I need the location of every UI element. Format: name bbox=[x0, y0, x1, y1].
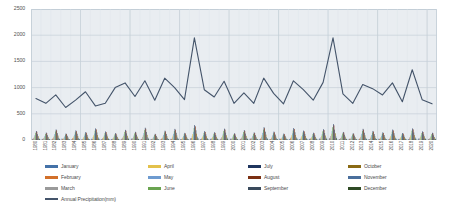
x-axis-tick-label: 1980 bbox=[34, 141, 39, 150]
legend-item[interactable]: April bbox=[148, 162, 174, 170]
x-axis-tick-label: 2012 bbox=[351, 141, 356, 150]
legend-label: April bbox=[164, 164, 174, 169]
x-axis-tick-label: 2005 bbox=[281, 141, 286, 150]
x-axis-tick-label: 1994 bbox=[172, 141, 177, 150]
legend-label: March bbox=[61, 186, 75, 191]
x-axis-tick-label: 1987 bbox=[103, 141, 108, 150]
y-axis-tick-label: 1000 bbox=[14, 85, 25, 90]
x-axis-tick-label: 2016 bbox=[390, 141, 395, 150]
x-axis-tick-label: 2013 bbox=[360, 141, 365, 150]
legend-item[interactable]: Annual Precipitation(mm) bbox=[45, 195, 116, 203]
x-axis-tick-label: 1991 bbox=[143, 141, 148, 150]
x-axis-tick-label: 2017 bbox=[400, 141, 405, 150]
legend-label: May bbox=[164, 175, 173, 180]
x-axis-tick-label: 2002 bbox=[252, 141, 257, 150]
x-axis-tick-label: 1993 bbox=[162, 141, 167, 150]
legend-swatch bbox=[148, 176, 161, 179]
y-axis-tick-label: 1500 bbox=[14, 59, 25, 64]
legend-item[interactable]: November bbox=[348, 173, 387, 181]
legend-swatch bbox=[148, 165, 161, 168]
x-axis-tick-label: 1983 bbox=[63, 141, 68, 150]
y-axis-tick-label: 0 bbox=[22, 137, 25, 142]
legend-item[interactable]: May bbox=[148, 173, 173, 181]
legend-label: September bbox=[264, 186, 288, 191]
x-axis-tick-label: 1998 bbox=[212, 141, 217, 150]
x-axis-tick-label: 2010 bbox=[331, 141, 336, 150]
legend-item[interactable]: September bbox=[248, 184, 288, 192]
legend-item[interactable]: February bbox=[45, 173, 81, 181]
legend-swatch bbox=[348, 176, 361, 179]
x-axis-tick-label: 2007 bbox=[301, 141, 306, 150]
chart-legend: JanuaryFebruaryMarchAprilMayJuneJulyAugu… bbox=[0, 160, 451, 204]
legend-swatch bbox=[348, 165, 361, 168]
x-axis-tick-label: 2006 bbox=[291, 141, 296, 150]
x-axis-tick-label: 2009 bbox=[321, 141, 326, 150]
legend-swatch bbox=[248, 176, 261, 179]
legend-label: February bbox=[61, 175, 81, 180]
y-axis-tick-label: 2000 bbox=[14, 33, 25, 38]
x-axis-tick-label: 2014 bbox=[370, 141, 375, 150]
x-axis-tick-label: 2008 bbox=[311, 141, 316, 150]
x-axis-tick-label: 1981 bbox=[44, 141, 49, 150]
y-axis-tick-label: 2500 bbox=[14, 6, 25, 11]
legend-label: November bbox=[364, 175, 387, 180]
x-axis-tick-label: 2004 bbox=[271, 141, 276, 150]
x-axis-tick-label: 1990 bbox=[133, 141, 138, 150]
legend-item[interactable]: October bbox=[348, 162, 381, 170]
legend-item[interactable]: December bbox=[348, 184, 387, 192]
legend-swatch bbox=[348, 187, 361, 190]
legend-label: June bbox=[164, 186, 175, 191]
legend-swatch bbox=[248, 187, 261, 190]
x-axis-tick-label: 2000 bbox=[232, 141, 237, 150]
x-axis-tick-label: 1986 bbox=[93, 141, 98, 150]
legend-item[interactable]: August bbox=[248, 173, 279, 181]
x-axis-tick-label: 2003 bbox=[261, 141, 266, 150]
x-axis-tick-label: 2011 bbox=[341, 141, 346, 150]
y-axis: 05001000150020002500 bbox=[0, 9, 28, 140]
y-axis-tick-label: 500 bbox=[17, 111, 25, 116]
legend-label: August bbox=[264, 175, 279, 180]
plot-canvas bbox=[31, 9, 437, 140]
plot-area bbox=[31, 9, 437, 140]
legend-label: December bbox=[364, 186, 387, 191]
x-axis-tick-label: 2020 bbox=[430, 141, 435, 150]
x-axis-tick-label: 2015 bbox=[380, 141, 385, 150]
x-axis-tick-label: 1999 bbox=[222, 141, 227, 150]
legend-item[interactable]: June bbox=[148, 184, 175, 192]
x-axis-tick-label: 1996 bbox=[192, 141, 197, 150]
x-axis-tick-label: 1984 bbox=[73, 141, 78, 150]
legend-label: January bbox=[61, 164, 78, 169]
legend-item[interactable]: July bbox=[248, 162, 273, 170]
legend-swatch bbox=[45, 198, 58, 199]
legend-swatch bbox=[45, 176, 58, 179]
x-axis-tick-label: 2001 bbox=[242, 141, 247, 150]
legend-label: October bbox=[364, 164, 381, 169]
x-axis-tick-label: 1988 bbox=[113, 141, 118, 150]
precipitation-chart: 05001000150020002500 1980198119821983198… bbox=[0, 0, 451, 206]
x-axis-tick-label: 1989 bbox=[123, 141, 128, 150]
legend-swatch bbox=[148, 187, 161, 190]
x-axis-tick-label: 1995 bbox=[182, 141, 187, 150]
legend-swatch bbox=[248, 165, 261, 168]
x-axis-tick-label: 2019 bbox=[420, 141, 425, 150]
legend-label: July bbox=[264, 164, 273, 169]
x-axis-tick-label: 1997 bbox=[202, 141, 207, 150]
x-axis-tick-label: 2018 bbox=[410, 141, 415, 150]
legend-item[interactable]: January bbox=[45, 162, 78, 170]
legend-label: Annual Precipitation(mm) bbox=[61, 197, 116, 202]
legend-swatch bbox=[45, 165, 58, 168]
legend-swatch bbox=[45, 187, 58, 190]
legend-item[interactable]: March bbox=[45, 184, 75, 192]
x-axis-tick-label: 1982 bbox=[53, 141, 58, 150]
x-axis-tick-label: 1985 bbox=[83, 141, 88, 150]
x-axis-tick-label: 1992 bbox=[152, 141, 157, 150]
x-axis: 1980198119821983198419851986198719881989… bbox=[31, 141, 437, 159]
